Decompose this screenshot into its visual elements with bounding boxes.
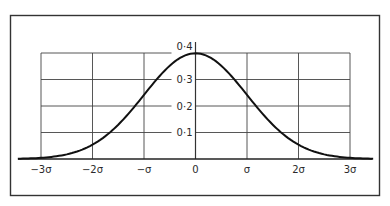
x-tick-label: −2σ (82, 164, 104, 175)
y-tick-label: 0·3 (177, 74, 193, 85)
x-tick-label: 2σ (292, 164, 305, 175)
x-tick-labels: −3σ−2σ−σ0σ2σ3σ (30, 164, 357, 175)
y-tick-label: 0·1 (177, 127, 193, 138)
x-tick-label: σ (244, 164, 251, 175)
y-tick-label: 0·4 (177, 41, 193, 52)
normal-distribution-chart: 0·10·20·30·4 −3σ−2σ−σ0σ2σ3σ (0, 0, 390, 206)
x-tick-label: 0 (192, 164, 198, 175)
y-tick-label: 0·2 (177, 101, 193, 112)
x-tick-label: 3σ (344, 164, 357, 175)
x-tick-label: −3σ (30, 164, 52, 175)
x-tick-label: −σ (137, 164, 152, 175)
